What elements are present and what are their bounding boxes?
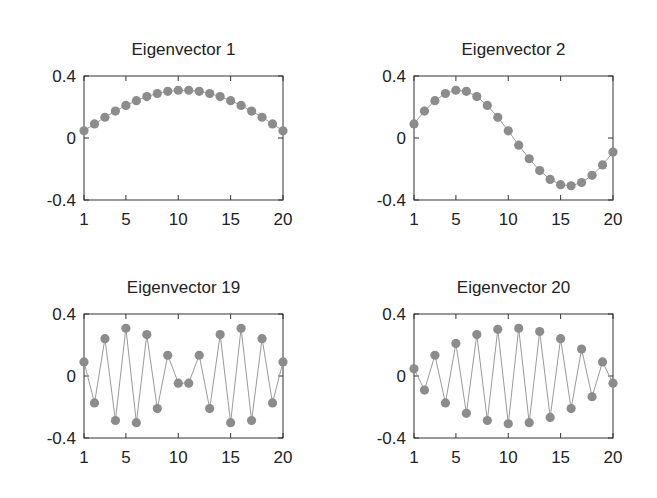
data-point	[226, 96, 235, 105]
data-point	[504, 126, 513, 135]
data-point	[90, 398, 99, 407]
data-line	[414, 328, 613, 423]
data-point	[472, 330, 481, 339]
plot-frame	[84, 76, 283, 200]
data-point	[525, 418, 534, 427]
y-tick-label: 0.4	[382, 67, 406, 86]
chart-panel-4: Eigenvector 200.40-0.415101520	[377, 278, 623, 467]
data-point	[195, 87, 204, 96]
x-tick-label: 20	[274, 210, 293, 229]
data-point	[278, 357, 287, 366]
x-tick-label: 5	[121, 448, 130, 467]
data-point	[90, 119, 99, 128]
y-tick-label: -0.4	[47, 429, 76, 448]
chart-title: Eigenvector 2	[462, 40, 566, 59]
data-point	[174, 379, 183, 388]
data-point	[556, 180, 565, 189]
data-point	[268, 398, 277, 407]
data-point	[226, 418, 235, 427]
data-point	[409, 364, 418, 373]
x-tick-label: 10	[169, 210, 188, 229]
data-point	[111, 106, 120, 115]
chart-panel-3: Eigenvector 190.40-0.415101520	[47, 278, 293, 467]
y-tick-label: -0.4	[377, 191, 406, 210]
data-point	[598, 160, 607, 169]
x-tick-label: 1	[409, 448, 418, 467]
data-point	[153, 404, 162, 413]
y-tick-label: 0.4	[52, 305, 76, 324]
y-tick-label: -0.4	[377, 429, 406, 448]
y-tick-label: 0	[67, 129, 76, 148]
data-point	[430, 96, 439, 105]
x-tick-label: 5	[451, 448, 460, 467]
data-point	[483, 101, 492, 110]
x-tick-label: 20	[604, 448, 623, 467]
data-point	[184, 86, 193, 95]
data-point	[142, 330, 151, 339]
data-point	[111, 416, 120, 425]
data-point	[462, 87, 471, 96]
data-point	[174, 86, 183, 95]
data-point	[132, 96, 141, 105]
data-point	[121, 324, 130, 333]
x-tick-label: 15	[221, 210, 240, 229]
chart-panel-2: Eigenvector 20.40-0.415101520	[377, 40, 623, 229]
y-tick-label: 0	[397, 367, 406, 386]
data-point	[121, 101, 130, 110]
data-point	[483, 416, 492, 425]
data-point	[205, 89, 214, 98]
x-tick-label: 1	[409, 210, 418, 229]
y-tick-label: -0.4	[47, 191, 76, 210]
data-point	[577, 344, 586, 353]
data-point	[205, 404, 214, 413]
data-point	[420, 386, 429, 395]
data-line	[84, 328, 283, 422]
data-point	[535, 327, 544, 336]
data-point	[535, 166, 544, 175]
data-point	[195, 351, 204, 360]
data-point	[268, 119, 277, 128]
data-point	[278, 126, 287, 135]
y-tick-label: 0.4	[52, 67, 76, 86]
data-point	[556, 334, 565, 343]
data-point	[430, 351, 439, 360]
data-point	[451, 339, 460, 348]
data-point	[525, 154, 534, 163]
eigenvector-figure: Eigenvector 10.40-0.415101520Eigenvector…	[0, 0, 657, 498]
data-point	[142, 92, 151, 101]
data-point	[514, 324, 523, 333]
x-tick-label: 10	[499, 210, 518, 229]
chart-title: Eigenvector 19	[127, 278, 240, 297]
data-point	[608, 379, 617, 388]
data-point	[237, 324, 246, 333]
x-tick-label: 1	[79, 210, 88, 229]
data-point	[257, 334, 266, 343]
data-point	[587, 392, 596, 401]
y-tick-label: 0	[67, 367, 76, 386]
data-point	[441, 398, 450, 407]
data-point	[493, 325, 502, 334]
chart-panel-1: Eigenvector 10.40-0.415101520	[47, 40, 293, 229]
data-point	[577, 178, 586, 187]
data-point	[493, 113, 502, 122]
data-point	[216, 92, 225, 101]
data-point	[504, 419, 513, 428]
data-point	[546, 175, 555, 184]
data-point	[587, 171, 596, 180]
data-point	[247, 106, 256, 115]
x-tick-label: 1	[79, 448, 88, 467]
data-line	[414, 90, 613, 185]
data-point	[409, 119, 418, 128]
chart-title: Eigenvector 1	[132, 40, 236, 59]
x-tick-label: 20	[274, 448, 293, 467]
data-point	[567, 181, 576, 190]
data-point	[514, 141, 523, 150]
y-tick-label: 0.4	[382, 305, 406, 324]
x-tick-label: 5	[451, 210, 460, 229]
data-point	[184, 379, 193, 388]
data-point	[598, 357, 607, 366]
chart-title: Eigenvector 20	[457, 278, 570, 297]
data-point	[247, 416, 256, 425]
data-point	[163, 87, 172, 96]
data-point	[546, 413, 555, 422]
